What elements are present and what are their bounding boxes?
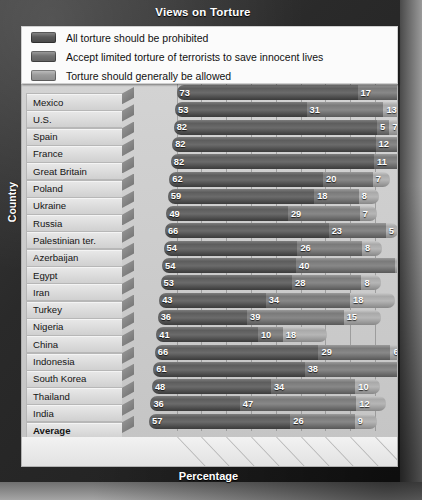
bar-segment[interactable]: 40 [296,258,395,273]
bar-segment[interactable]: 10 [355,379,380,394]
bar-segment[interactable]: 15 [344,310,381,325]
bar-segment[interactable]: 26 [297,241,361,256]
bar-segment[interactable]: 29 [318,345,390,360]
bar-segment[interactable]: 41 [156,327,258,342]
category-label[interactable]: Turkey [26,301,122,319]
bar-row[interactable]: 364712 [126,396,397,411]
bar-segment[interactable]: 39 [247,310,344,325]
bar-row[interactable]: 54406 [126,258,397,273]
bar-row[interactable]: 613813 [126,362,397,377]
bar-segment[interactable]: 36 [158,310,247,325]
bar-segment[interactable]: 26 [290,414,354,429]
bar-segment[interactable]: 9 [355,414,377,429]
bar-segment[interactable]: 62 [169,172,323,187]
bar-segment[interactable]: 47 [240,396,357,411]
bar-row[interactable]: 533113 [126,102,397,117]
bar-segment[interactable]: 34 [266,293,350,308]
bar-row[interactable]: 73177 [126,85,397,100]
category-label[interactable]: Azerbaijan [26,249,122,267]
bar-segment[interactable]: 13 [383,102,398,117]
category-label[interactable]: Ukraine [26,197,122,215]
bar-value-label: 39 [250,312,260,322]
category-label[interactable]: Nigeria [26,318,122,336]
bar-segment[interactable]: 7 [373,172,390,187]
category-label[interactable]: Poland [26,180,122,198]
bar-row[interactable]: 66296 [126,345,397,360]
bar-segment[interactable]: 53 [175,102,306,117]
bar-row[interactable]: 483410 [126,379,397,394]
bar-segment[interactable]: 18 [350,293,395,308]
category-label[interactable]: Palestinian ter. [26,231,122,249]
bar-segment[interactable]: 8 [362,241,382,256]
bar-segment[interactable]: 8 [361,275,381,290]
bar-segment[interactable]: 6 [390,345,398,360]
category-label[interactable]: India [26,404,122,422]
bar-segment[interactable]: 7 [389,120,398,135]
bar-segment[interactable]: 17 [358,85,398,100]
bar-segment[interactable]: 36 [150,396,239,411]
bar-segment[interactable]: 12 [376,137,398,152]
bar-row[interactable]: 363915 [126,310,397,325]
legend-item[interactable]: All torture should be prohibited [22,29,397,46]
bar-row[interactable]: 49297 [126,206,397,221]
bar-segment[interactable]: 8 [359,189,379,204]
legend-item[interactable]: Torture should generally be allowed [22,67,397,84]
bar-segment[interactable]: 7 [360,206,377,221]
bar-segment[interactable]: 23 [329,223,386,238]
category-label[interactable]: Great Britain [26,162,122,180]
category-label[interactable]: U.S. [26,110,122,128]
bar-row[interactable]: 433418 [126,293,397,308]
bar-row[interactable]: 411018 [126,327,397,342]
bar-row[interactable]: 53288 [126,275,397,290]
category-label[interactable]: Iran [26,283,122,301]
bar-segment[interactable]: 29 [288,206,360,221]
bar-segment[interactable]: 54 [162,258,296,273]
bar-segment[interactable]: 82 [172,137,375,152]
category-label[interactable]: Indonesia [26,353,122,371]
bar-segment[interactable]: 34 [271,379,355,394]
bar-segment[interactable]: 66 [155,345,319,360]
bar-segment[interactable]: 73 [177,85,358,100]
bar-segment[interactable]: 61 [153,362,304,377]
bar-row[interactable]: 62207 [126,172,397,187]
bar-row[interactable]: 82124 [126,137,397,152]
bar-segment[interactable]: 82 [174,120,377,135]
bar-segment[interactable]: 82 [171,154,374,169]
bar-segment[interactable]: 11 [374,154,398,169]
bar-row[interactable]: 8257 [126,120,397,135]
bar-segment[interactable]: 31 [307,102,384,117]
category-label[interactable]: Russia [26,214,122,232]
bar-segment[interactable]: 38 [305,362,398,377]
bar-segment[interactable]: 5 [377,120,389,135]
category-label[interactable]: Spain [26,128,122,146]
bar-segment[interactable]: 18 [283,327,328,342]
bar-segment[interactable]: 18 [314,189,359,204]
bar-segment[interactable]: 54 [164,241,298,256]
bar-segment[interactable]: 66 [165,223,329,238]
category-label[interactable]: Thailand [26,387,122,405]
bar-segment[interactable]: 48 [152,379,271,394]
category-label[interactable]: Egypt [26,266,122,284]
legend-item[interactable]: Accept limited torture of terrorists to … [22,48,397,65]
category-label[interactable]: Mexico [26,93,122,111]
bar-segment[interactable]: 6 [395,258,398,273]
bar-row[interactable]: 59188 [126,189,397,204]
category-label[interactable]: China [26,335,122,353]
bar-segment[interactable]: 5 [386,223,398,238]
bar-segment[interactable]: 12 [356,396,386,411]
bar-row[interactable]: 66235 [126,223,397,238]
bar-segment[interactable]: 28 [292,275,361,290]
bar-segment[interactable]: 10 [258,327,283,342]
bar-row[interactable]: 57269 [126,414,397,429]
bar-segment[interactable]: 43 [159,293,266,308]
bar-segment[interactable]: 57 [149,414,290,429]
bar-segment[interactable]: 53 [161,275,292,290]
category-label[interactable]: France [26,145,122,163]
category-label[interactable]: South Korea [26,370,122,388]
bar-row[interactable]: 82114 [126,154,397,169]
bar-row[interactable]: 54268 [126,241,397,256]
bar-segment[interactable]: 49 [166,206,288,221]
x-tick-label: 90% [355,466,389,467]
bar-segment[interactable]: 59 [168,189,314,204]
bar-segment[interactable]: 20 [323,172,373,187]
